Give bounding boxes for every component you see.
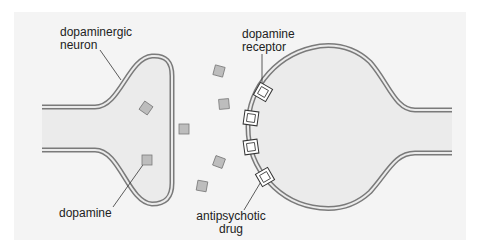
neuron-leader-line (100, 50, 121, 80)
label-line: drug (191, 223, 271, 236)
presynaptic-neuron (42, 56, 172, 204)
receptor (243, 110, 259, 126)
receptor (243, 139, 259, 155)
label-dopamine: dopamine (59, 207, 112, 220)
label-dopamine-receptor: dopamine receptor (242, 28, 295, 54)
label-line: dopamine (59, 207, 112, 220)
dopamine-molecule (213, 65, 225, 77)
label-line: neuron (60, 39, 132, 52)
dopamine-molecule (196, 180, 208, 192)
dopamine-molecule (213, 156, 226, 169)
dopamine-molecule (219, 99, 230, 110)
dopamine-molecule (179, 124, 189, 134)
postsynaptic-neuron (248, 46, 452, 209)
label-antipsychotic-drug: antipsychotic drug (191, 210, 271, 236)
label-dopaminergic-neuron: dopaminergic neuron (60, 26, 132, 52)
drug-leader-line (244, 180, 262, 210)
label-line: receptor (242, 41, 295, 54)
dopamine-molecule (142, 155, 152, 165)
